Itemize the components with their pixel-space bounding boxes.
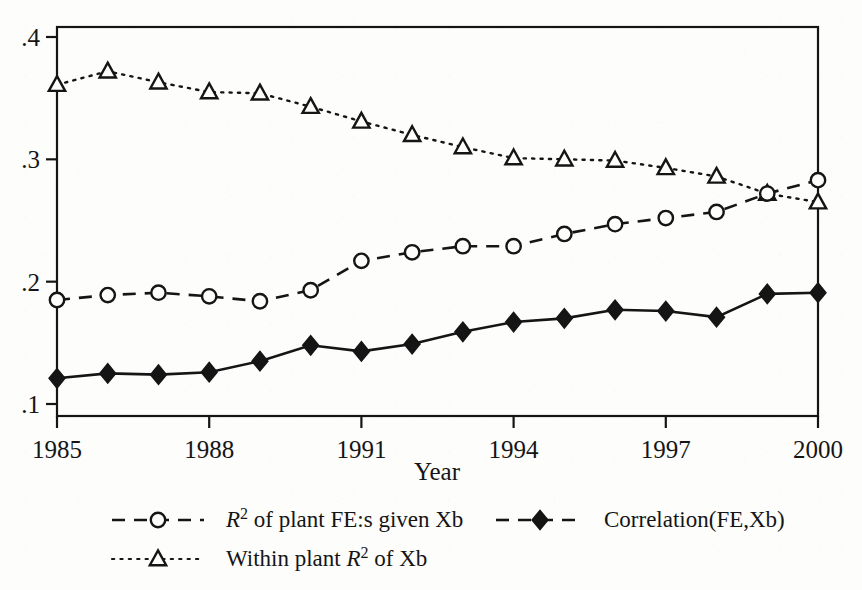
data-point-filled-diamond [455, 322, 471, 341]
series-line-solid [57, 293, 818, 379]
y-tick-label: .2 [21, 269, 40, 296]
series-line-dashed [57, 180, 818, 301]
line-chart-figure: .1.2.3.4 198519881991199419972000 Year R… [0, 0, 862, 590]
data-point-open-circle [456, 239, 470, 253]
data-point-open-triangle [353, 113, 369, 128]
data-point-filled-diamond [658, 301, 674, 320]
data-point-open-circle [811, 173, 825, 187]
data-point-filled-diamond [49, 369, 65, 388]
x-tick-label: 1985 [32, 436, 82, 463]
legend-entry-r2-plant-fe[interactable]: R2 of plant FE:s given Xb [112, 505, 463, 532]
x-tick-label: 1991 [336, 436, 386, 463]
data-point-open-circle [760, 186, 774, 200]
data-point-open-circle [709, 205, 723, 219]
data-point-open-circle [202, 289, 216, 303]
data-point-filled-diamond [201, 363, 217, 382]
data-point-filled-diamond [810, 283, 826, 302]
legend-key-open-triangle-dotted [112, 550, 204, 565]
data-point-open-triangle [708, 168, 724, 183]
data-point-open-triangle [404, 126, 420, 141]
data-point-open-circle [151, 513, 165, 527]
legend-label-r2-plant-fe: R2 of plant FE:s given Xb [225, 505, 463, 532]
y-axis-ticks: .1.2.3.4 [21, 24, 57, 418]
x-tick-label: 2000 [793, 436, 843, 463]
x-axis-ticks: 198519881991199419972000 [32, 416, 843, 463]
x-tick-label: 1997 [641, 436, 691, 463]
legend-label-correlation: Correlation(FE,Xb) [604, 507, 785, 532]
data-point-open-triangle [100, 63, 116, 78]
data-point-open-circle [557, 227, 571, 241]
data-point-open-circle [50, 293, 64, 307]
data-point-open-circle [506, 239, 520, 253]
legend-key-filled-diamond-solid [496, 510, 584, 529]
data-point-filled-diamond [556, 309, 572, 328]
data-point-open-triangle [49, 76, 65, 91]
legend-entry-within-plant-r2[interactable]: Within plant R2 of Xb [112, 544, 427, 571]
data-point-open-circle [405, 245, 419, 259]
data-point-filled-diamond [303, 336, 319, 355]
data-point-filled-diamond [252, 352, 268, 371]
legend-key-open-circle-dashed [112, 513, 204, 527]
chart-legend: R2 of plant FE:s given Xb Correlation(FE… [112, 505, 785, 571]
data-point-filled-diamond [759, 284, 775, 303]
data-series-layer [49, 63, 826, 388]
y-tick-label: .1 [21, 391, 40, 418]
x-tick-label: 1988 [184, 436, 234, 463]
series-line-dotted [57, 71, 818, 202]
data-point-filled-diamond [709, 308, 725, 327]
data-point-open-triangle [150, 550, 166, 565]
data-point-open-circle [151, 285, 165, 299]
x-axis-title: Year [414, 458, 461, 485]
data-point-filled-diamond [404, 334, 420, 353]
data-point-open-circle [101, 288, 115, 302]
legend-entry-correlation[interactable]: Correlation(FE,Xb) [496, 507, 785, 532]
data-point-open-circle [659, 211, 673, 225]
data-point-filled-diamond [151, 365, 167, 384]
y-tick-label: .4 [21, 24, 40, 51]
x-tick-label: 1994 [489, 436, 540, 463]
series-open-triangle [49, 63, 826, 209]
data-point-open-circle [354, 254, 368, 268]
data-point-open-circle [608, 217, 622, 231]
series-filled-diamond [49, 283, 826, 388]
data-point-filled-diamond [506, 312, 522, 331]
data-point-filled-diamond [532, 510, 548, 529]
data-point-open-circle [303, 283, 317, 297]
data-point-filled-diamond [354, 342, 370, 361]
data-point-open-circle [253, 294, 267, 308]
data-point-open-triangle [150, 74, 166, 89]
y-tick-label: .3 [21, 146, 40, 173]
legend-label-within-plant-r2: Within plant R2 of Xb [226, 544, 427, 571]
series-open-circle [50, 173, 825, 309]
data-point-filled-diamond [607, 300, 623, 319]
data-point-filled-diamond [100, 364, 116, 383]
